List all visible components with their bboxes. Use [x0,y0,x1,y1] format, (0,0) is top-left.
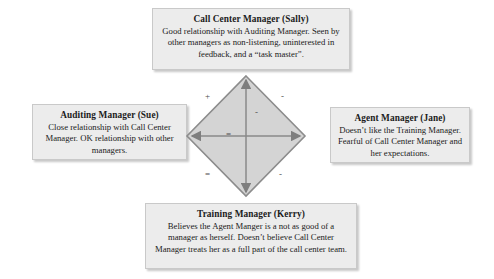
node-title-agent-manager: Agent Manager (Jane) [337,112,463,124]
sign-bottom-left-edge: = [205,170,210,179]
sign-center-left: = [226,130,231,139]
node-body-training-manager: Believes the Agent Manger is a not as go… [152,221,350,255]
sign-top-right-edge: - [281,92,284,101]
node-box-auditing-manager[interactable]: Auditing Manager (Sue) Close relationshi… [32,104,187,160]
relationship-diamond: + - = - = - [181,70,311,202]
node-body-auditing-manager: Close relationship with Call Center Mana… [39,122,180,156]
sign-top-left-edge: + [205,92,210,101]
diagram-canvas: Call Center Manager (Sally) Good relatio… [0,0,494,279]
node-box-training-manager[interactable]: Training Manager (Kerry) Believes the Ag… [145,203,357,269]
sign-bottom-right-edge: - [279,170,282,179]
node-box-call-center-manager[interactable]: Call Center Manager (Sally) Good relatio… [152,8,350,70]
node-title-auditing-manager: Auditing Manager (Sue) [39,109,180,121]
node-body-call-center-manager: Good relationship with Auditing Manager.… [159,26,343,60]
node-title-call-center-manager: Call Center Manager (Sally) [159,13,343,25]
node-title-training-manager: Training Manager (Kerry) [152,208,350,220]
node-body-agent-manager: Doesn’t like the Training Manager. Fearf… [337,125,463,159]
sign-center-right: - [255,108,258,117]
node-box-agent-manager[interactable]: Agent Manager (Jane) Doesn’t like the Tr… [330,107,470,163]
diamond-svg [181,70,311,202]
